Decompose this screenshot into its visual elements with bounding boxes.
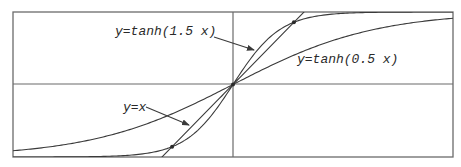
label-y-equals-x: y=x: [122, 100, 147, 115]
intersection-dot: [231, 83, 235, 87]
intersection-dot: [170, 145, 174, 149]
tanh-plot: y=tanh(1.5 x) y=tanh(0.5 x) y=x: [0, 0, 461, 167]
intersection-dot: [292, 20, 296, 24]
label-tanh-0-5x: y=tanh(0.5 x): [296, 52, 398, 67]
label-tanh-1-5x: y=tanh(1.5 x): [114, 24, 216, 39]
annotation-arrow-tanh-1-5x: [214, 37, 254, 50]
